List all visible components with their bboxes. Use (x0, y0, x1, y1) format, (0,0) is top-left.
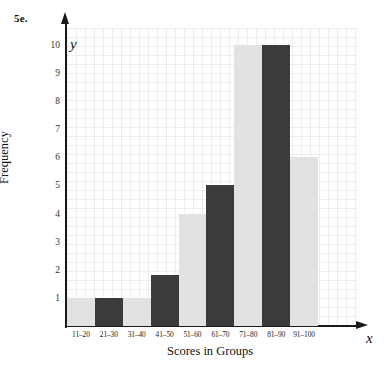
bar (67, 298, 95, 326)
y-axis-title-wrap: Frequency (22, 0, 42, 384)
bar (234, 45, 262, 326)
bar (95, 298, 123, 326)
x-tick-label: 91–100 (286, 330, 322, 339)
x-axis-title: Scores in Groups (0, 344, 390, 359)
bar (262, 45, 290, 326)
bar (123, 298, 151, 326)
bar (179, 214, 207, 326)
bar-series (67, 28, 318, 326)
bar (151, 275, 179, 326)
x-axis-arrowhead-icon (356, 321, 368, 329)
bar (290, 157, 318, 326)
y-axis-arrowhead-icon (61, 12, 69, 24)
bar (206, 185, 234, 326)
histogram-figure: 5e. y x 12345678910 11–2021–3031–4041–50… (0, 0, 390, 384)
x-axis-tick-labels: 11–2021–3031–4041–5051–6061–7071–8081–90… (67, 330, 318, 344)
y-axis-title: Frequency (0, 131, 12, 184)
